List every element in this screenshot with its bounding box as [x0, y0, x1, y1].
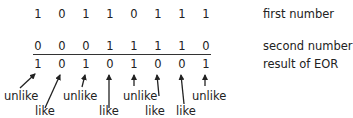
arrow-icon — [157, 75, 159, 96]
arrow-icon — [82, 75, 85, 87]
like-label: like — [35, 106, 55, 118]
arrow-icon — [181, 75, 184, 104]
unlike-label: unlike — [123, 91, 157, 103]
unlike-label: unlike — [4, 91, 38, 103]
like-label: like — [145, 106, 165, 118]
unlike-label: unlike — [63, 91, 97, 103]
like-label: like — [99, 106, 119, 118]
like-label: like — [176, 106, 196, 118]
unlike-label: unlike — [192, 91, 226, 103]
arrow-icon — [20, 74, 35, 88]
